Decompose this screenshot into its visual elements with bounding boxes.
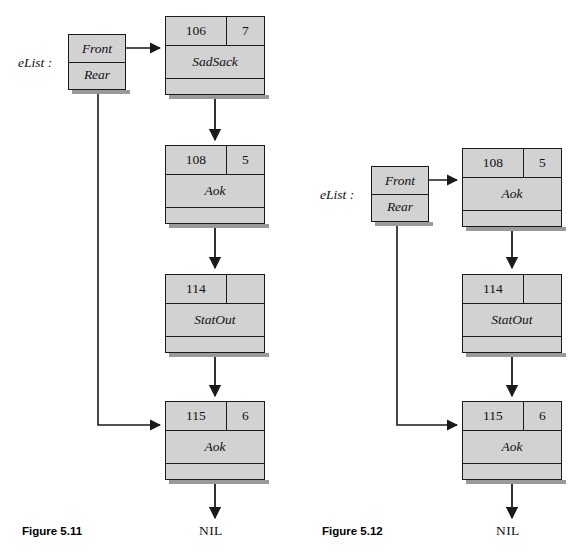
elist-front-label-right: Front [385, 173, 415, 189]
node-name-value: StatOut [194, 312, 235, 328]
node-next-row [463, 337, 561, 354]
node-right-2: 115 6 Aok [462, 401, 562, 480]
node-count-cell: 5 [524, 149, 561, 177]
figure-caption-right: Figure 5.12 [322, 525, 383, 537]
node-key-cell: 108 [463, 149, 524, 177]
node-count-cell [227, 275, 264, 303]
node-left-2: 114 StatOut [165, 274, 265, 353]
nil-label-left: NIL [199, 523, 223, 539]
node-name-value: StatOut [491, 312, 532, 328]
node-left-0: 106 7 SadSack [165, 16, 265, 95]
node-key-value: 106 [186, 23, 206, 39]
node-header-row: 114 [166, 275, 264, 304]
node-key-value: 108 [186, 152, 206, 168]
elist-front-cell-right: Front [372, 167, 428, 195]
node-name-row: SadSack [166, 46, 264, 79]
elist-box-shadow-right [375, 222, 433, 226]
node-header-row: 108 5 [166, 146, 264, 175]
elist-rear-label-left: Rear [84, 67, 110, 83]
node-key-cell: 115 [166, 402, 227, 430]
node-key-cell: 115 [463, 402, 524, 430]
elist-box-left: Front Rear [68, 34, 126, 90]
node-name-row: StatOut [166, 304, 264, 337]
node-count-value: 7 [242, 23, 249, 39]
node-count-cell: 5 [227, 146, 264, 174]
elist-rear-cell-left: Rear [69, 61, 125, 89]
node-right-0: 108 5 Aok [462, 148, 562, 227]
node-header-row: 108 5 [463, 149, 561, 178]
node-key-cell: 114 [463, 275, 524, 303]
node-name-row: Aok [166, 175, 264, 208]
node-next-row [166, 79, 264, 96]
node-next-row [463, 464, 561, 481]
node-name-row: Aok [463, 178, 561, 211]
rear-pointer-path-left [98, 85, 160, 425]
node-next-row [463, 211, 561, 228]
node-header-row: 115 6 [166, 402, 264, 431]
node-header-row: 115 6 [463, 402, 561, 431]
elist-front-label-left: Front [82, 41, 112, 57]
node-key-value: 114 [483, 281, 503, 297]
node-name-row: StatOut [463, 304, 561, 337]
figure-caption-left: Figure 5.11 [22, 525, 82, 537]
node-next-row [166, 337, 264, 354]
node-left-1: 108 5 Aok [165, 145, 265, 224]
node-key-value: 114 [186, 281, 206, 297]
elist-label-left: eList : [18, 55, 52, 71]
node-count-value: 6 [242, 408, 249, 424]
elist-rear-label-right: Rear [387, 199, 413, 215]
elist-box-right: Front Rear [371, 166, 429, 222]
node-right-1: 114 StatOut [462, 274, 562, 353]
node-name-value: SadSack [192, 54, 238, 70]
node-name-value: Aok [205, 439, 226, 455]
node-count-value: 5 [539, 155, 546, 171]
elist-box-shadow-left [72, 90, 130, 94]
node-key-value: 115 [483, 408, 503, 424]
node-header-row: 106 7 [166, 17, 264, 46]
node-next-row [166, 464, 264, 481]
elist-front-cell-left: Front [69, 35, 125, 63]
elist-rear-cell-right: Rear [372, 193, 428, 221]
rear-pointer-path-right [397, 217, 457, 425]
elist-label-right: eList : [320, 187, 354, 203]
node-count-value: 6 [539, 408, 546, 424]
nil-label-right: NIL [496, 523, 520, 539]
node-count-cell: 7 [227, 17, 264, 45]
node-name-value: Aok [502, 186, 523, 202]
node-count-cell: 6 [227, 402, 264, 430]
node-name-value: Aok [205, 183, 226, 199]
diagram-canvas: Front Rear eList : 106 7 SadSack 108 [0, 0, 584, 559]
node-key-cell: 114 [166, 275, 227, 303]
node-name-value: Aok [502, 439, 523, 455]
node-name-row: Aok [166, 431, 264, 464]
node-key-value: 108 [483, 155, 503, 171]
node-count-value: 5 [242, 152, 249, 168]
node-count-cell: 6 [524, 402, 561, 430]
node-key-cell: 108 [166, 146, 227, 174]
node-count-cell [524, 275, 561, 303]
node-key-cell: 106 [166, 17, 227, 45]
node-header-row: 114 [463, 275, 561, 304]
node-name-row: Aok [463, 431, 561, 464]
node-next-row [166, 208, 264, 225]
node-key-value: 115 [186, 408, 206, 424]
node-left-3: 115 6 Aok [165, 401, 265, 480]
